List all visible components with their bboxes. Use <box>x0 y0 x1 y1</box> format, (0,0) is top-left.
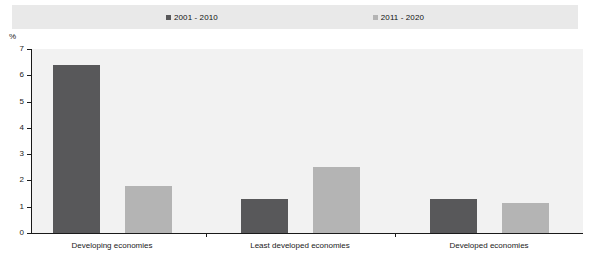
bar <box>241 199 288 233</box>
x-axis-category-labels: Developing economiesLeast developed econ… <box>0 241 590 255</box>
bar <box>502 203 549 233</box>
x-axis-tick <box>206 234 207 237</box>
bar <box>53 65 100 233</box>
category-label: Developing economies <box>72 241 153 251</box>
category-label: Least developed economies <box>250 241 350 251</box>
square-marker-icon <box>373 15 378 20</box>
bar <box>125 186 172 233</box>
category-label: Developed economies <box>449 241 528 251</box>
legend-entry-2001-2010: 2001 - 2010 <box>166 13 218 22</box>
legend-label: 2001 - 2010 <box>174 13 218 22</box>
legend-label: 2011 - 2020 <box>381 13 424 22</box>
x-axis-tick <box>395 234 396 237</box>
y-axis-tick <box>27 233 31 234</box>
bar <box>430 199 477 233</box>
chart-plot-area: 01234567 <box>0 44 590 240</box>
x-axis-line <box>31 233 583 234</box>
legend-entry-2011-2020: 2011 - 2020 <box>373 13 424 22</box>
bars-layer <box>0 44 590 233</box>
chart-legend: 2001 - 2010 2011 - 2020 <box>12 5 578 29</box>
square-marker-icon <box>166 15 171 20</box>
y-axis-unit-label: % <box>9 33 16 41</box>
bar <box>313 167 360 233</box>
